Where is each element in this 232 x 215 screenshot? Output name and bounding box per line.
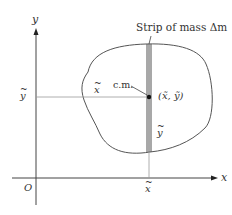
- x-axis-arrow-icon: [211, 176, 218, 181]
- y-axis-arrow-icon: [34, 28, 39, 35]
- y-axis-label: y: [32, 14, 38, 25]
- origin-label: O: [24, 183, 32, 193]
- x-tilde-inside-text: x: [94, 85, 100, 95]
- x-tilde-axis-label: x: [145, 184, 151, 194]
- center-of-mass-dot: [147, 95, 151, 99]
- y-tilde-inside-text: y: [157, 128, 163, 138]
- point-coordinates-label: (x̃, ỹ): [158, 91, 183, 101]
- strip-leader-line: [149, 36, 151, 44]
- x-tilde-axis-text: x: [145, 184, 151, 194]
- x-axis-label: x: [221, 172, 227, 183]
- y-tilde-inside-label: y: [157, 128, 163, 138]
- strip-label: Strip of mass Δm: [136, 22, 227, 33]
- y-tilde-axis-label: y: [20, 91, 26, 101]
- x-tilde-inside-label: x: [94, 85, 100, 95]
- cm-leader-line: [131, 86, 147, 95]
- y-tilde-axis-text: y: [20, 91, 26, 101]
- center-of-mass-label: c.m.: [113, 80, 133, 90]
